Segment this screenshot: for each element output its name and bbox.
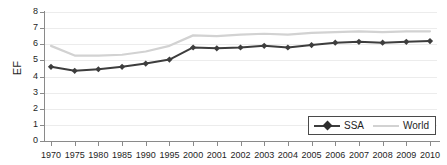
x-axis-tick xyxy=(430,142,431,146)
x-axis-tick xyxy=(241,142,242,146)
x-axis-tick-label: 2000 xyxy=(181,150,205,160)
legend-item-ssa[interactable]: SSA xyxy=(309,117,364,134)
y-axis-tick-label: 1 xyxy=(24,120,38,129)
y-axis-tick-label: 7 xyxy=(24,23,38,32)
x-axis-tick xyxy=(264,142,265,146)
x-axis-tick-label: 1990 xyxy=(134,150,158,160)
y-axis-tick-label: 5 xyxy=(24,55,38,64)
data-point-marker xyxy=(72,68,78,74)
x-axis-tick-label: 2006 xyxy=(323,150,347,160)
legend-label-world: World xyxy=(403,121,429,131)
y-axis-tick-label: 0 xyxy=(24,136,38,145)
legend-label-ssa: SSA xyxy=(344,121,364,131)
x-axis-tick xyxy=(312,142,313,146)
x-axis-tick-label: 1995 xyxy=(157,150,181,160)
x-axis-tick-label: 1985 xyxy=(110,150,134,160)
x-axis-tick xyxy=(335,142,336,146)
y-axis-tick-label: 4 xyxy=(24,72,38,81)
x-axis-tick-label: 2002 xyxy=(229,150,253,160)
x-axis-tick xyxy=(193,142,194,146)
y-axis-tick xyxy=(40,125,44,126)
x-axis-tick xyxy=(288,142,289,146)
x-axis-tick xyxy=(359,142,360,146)
data-point-marker xyxy=(95,66,101,72)
y-axis-tick xyxy=(40,77,44,78)
y-axis-tick xyxy=(40,60,44,61)
y-axis-tick xyxy=(40,109,44,110)
y-axis-tick-label: 2 xyxy=(24,104,38,113)
data-point-marker xyxy=(427,38,433,44)
data-point-marker xyxy=(308,42,314,48)
x-axis-tick xyxy=(169,142,170,146)
data-point-marker xyxy=(214,45,220,51)
data-point-marker xyxy=(356,39,362,45)
x-axis-tick-label: 2001 xyxy=(205,150,229,160)
data-point-marker xyxy=(119,64,125,70)
x-axis-tick-label: 2004 xyxy=(276,150,300,160)
data-point-marker xyxy=(380,40,386,46)
x-axis-tick xyxy=(146,142,147,146)
x-axis-tick-label: 1980 xyxy=(86,150,110,160)
data-point-marker xyxy=(48,64,54,70)
y-axis-tick xyxy=(40,28,44,29)
x-axis-tick xyxy=(406,142,407,146)
legend-item-world[interactable]: World xyxy=(364,117,429,134)
y-axis-line xyxy=(44,11,45,142)
x-axis-line xyxy=(44,141,440,142)
x-axis-tick-label: 2007 xyxy=(347,150,371,160)
x-axis-tick-label: 1970 xyxy=(39,150,63,160)
y-axis-tick-labels: 012345678 xyxy=(20,0,38,165)
y-axis-tick-label: 3 xyxy=(24,88,38,97)
y-axis-tick xyxy=(40,44,44,45)
x-axis-tick-label: 2003 xyxy=(252,150,276,160)
chart-container: EF 012345678 197019751980198519901995200… xyxy=(0,0,447,165)
y-axis-tick xyxy=(40,12,44,13)
x-axis-tick-label: 2009 xyxy=(394,150,418,160)
data-point-marker xyxy=(143,61,149,67)
x-axis-tick-label: 2005 xyxy=(300,150,324,160)
x-axis-tick xyxy=(75,142,76,146)
x-axis-tick xyxy=(383,142,384,146)
legend-swatch-world-icon xyxy=(373,120,399,131)
y-axis-tick xyxy=(40,141,44,142)
data-point-marker xyxy=(403,39,409,45)
series-line-world xyxy=(51,31,430,55)
x-axis-tick xyxy=(98,142,99,146)
x-axis-tick-label: 2010 xyxy=(418,150,442,160)
x-axis-tick xyxy=(122,142,123,146)
y-axis-tick-label: 8 xyxy=(24,7,38,16)
data-point-marker xyxy=(237,44,243,50)
y-axis-tick xyxy=(40,93,44,94)
x-axis-tick-label: 1975 xyxy=(63,150,87,160)
data-point-marker xyxy=(261,43,267,49)
x-axis-tick xyxy=(217,142,218,146)
data-point-marker xyxy=(332,40,338,46)
legend-swatch-ssa-icon xyxy=(314,120,340,131)
y-axis-tick-label: 6 xyxy=(24,39,38,48)
chart-legend[interactable]: SSA World xyxy=(308,116,436,135)
x-axis-tick-label: 2008 xyxy=(371,150,395,160)
x-axis-tick xyxy=(51,142,52,146)
data-point-marker xyxy=(285,44,291,50)
